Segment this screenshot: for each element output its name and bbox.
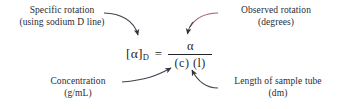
leader-observed-rotation-tip xyxy=(188,22,194,34)
callout-length-of-sample-tube-line1: Length of sample tube xyxy=(222,76,334,88)
equals-sign: = xyxy=(155,46,162,62)
equation-left-hand-side: [α]D xyxy=(126,46,149,62)
specific-rotation-symbol: [α] xyxy=(126,46,143,61)
specific-rotation-subscript: D xyxy=(143,52,149,62)
leader-length-of-sample-tube xyxy=(192,70,218,88)
callout-concentration-line1: Concentration xyxy=(36,76,120,88)
callout-concentration-line2: (g/mL) xyxy=(36,88,120,100)
callout-length-of-sample-tube-line2: (dm) xyxy=(222,88,334,100)
callout-observed-rotation: Observed rotation (degrees) xyxy=(222,5,330,28)
callout-length-of-sample-tube: Length of sample tube (dm) xyxy=(222,76,334,99)
specific-rotation-formula-figure: Specific rotation (using sodium D line) … xyxy=(0,0,338,109)
fraction-denominator: (c) (l) xyxy=(171,55,210,69)
fraction: α (c) (l) xyxy=(168,40,212,69)
callout-observed-rotation-line1: Observed rotation xyxy=(222,5,330,17)
callout-specific-rotation-line2: (using sodium D line) xyxy=(6,17,118,29)
callout-specific-rotation-line1: Specific rotation xyxy=(6,5,118,17)
leader-observed-rotation xyxy=(190,13,218,27)
callout-specific-rotation: Specific rotation (using sodium D line) xyxy=(6,5,118,28)
leader-concentration xyxy=(122,68,171,82)
equation: [α]D = α (c) (l) xyxy=(126,40,212,69)
fraction-numerator: α xyxy=(181,40,200,54)
callout-concentration: Concentration (g/mL) xyxy=(36,76,120,99)
callout-observed-rotation-line2: (degrees) xyxy=(222,17,330,29)
